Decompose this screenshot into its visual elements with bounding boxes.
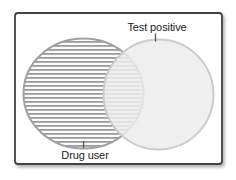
figure-stage: Test positive Drug user (0, 0, 236, 180)
drug-user-label: Drug user (61, 149, 109, 161)
venn-diagram: Test positive Drug user (0, 0, 236, 180)
test-positive-circle (104, 40, 214, 150)
test-positive-label: Test positive (127, 21, 186, 33)
